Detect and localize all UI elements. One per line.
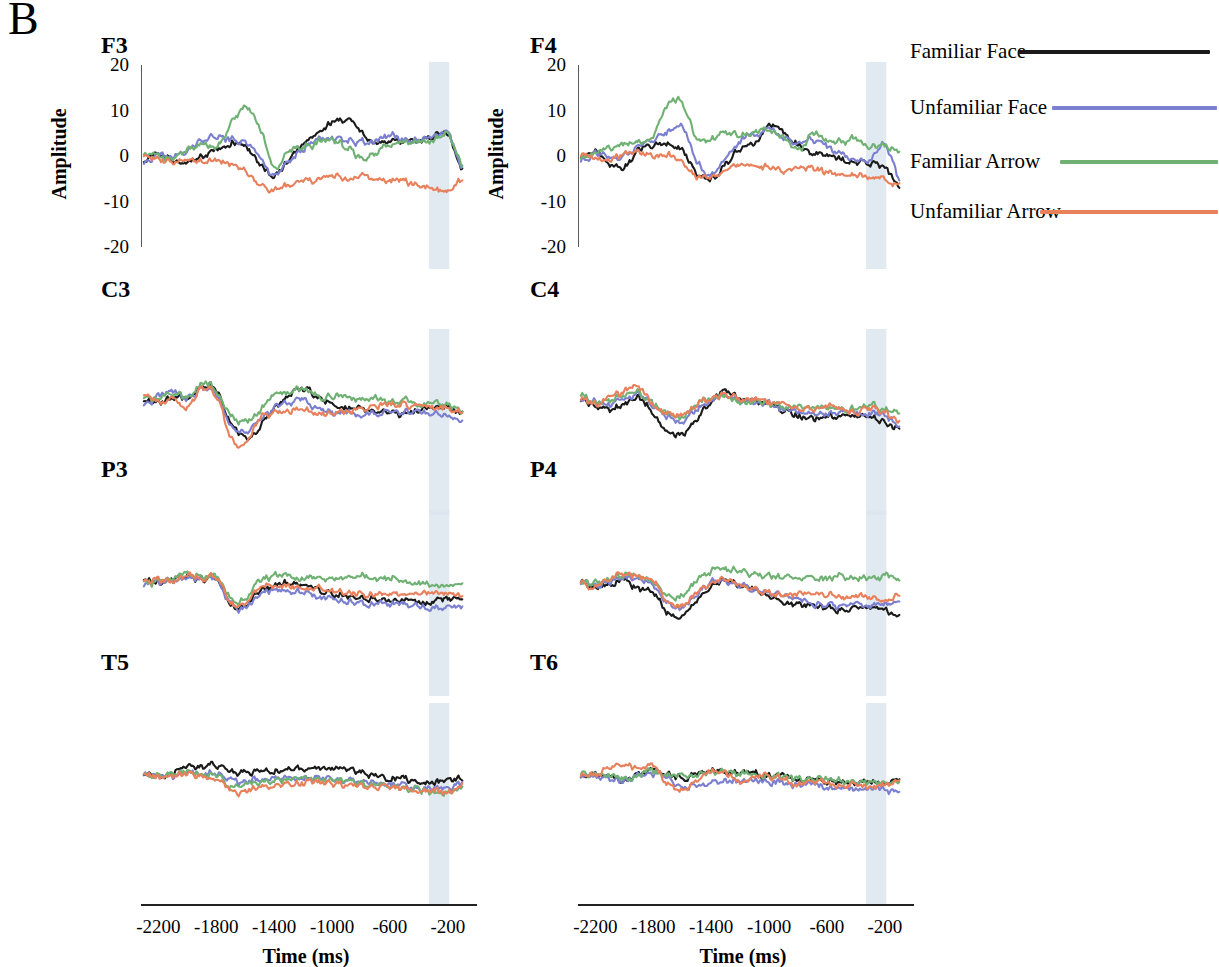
legend-label: Familiar Arrow xyxy=(910,148,1040,174)
legend-color-swatch xyxy=(1040,210,1218,214)
analysis-window-shading xyxy=(429,62,449,269)
y-axis-label: Amplitude xyxy=(49,84,69,224)
y-tick-label: 20 xyxy=(79,55,129,74)
plot-t6 xyxy=(578,685,908,867)
waveform-f3-unfamiliar-face xyxy=(144,131,462,175)
y-tick-label: 0 xyxy=(79,146,129,165)
plot-f4 xyxy=(578,65,908,247)
electrode-label-p4: P4 xyxy=(530,457,557,481)
waveform-t5-unfamiliar-arrow xyxy=(144,771,462,796)
electrode-label-t6: T6 xyxy=(530,650,558,674)
legend-color-swatch xyxy=(1060,160,1218,164)
electrode-label-c4: C4 xyxy=(530,277,559,301)
panel-letter: B xyxy=(8,0,39,42)
legend-color-swatch xyxy=(1018,50,1210,54)
plot-f3 xyxy=(141,65,471,247)
legend-label: Unfamiliar Arrow xyxy=(910,198,1061,224)
legend: Familiar FaceUnfamiliar FaceFamiliar Arr… xyxy=(910,38,1210,238)
y-tick-label: 0 xyxy=(516,146,566,165)
y-tick-label: -10 xyxy=(79,192,129,211)
y-tick-label: -10 xyxy=(516,192,566,211)
x-axis-label: Time (ms) xyxy=(668,946,818,966)
legend-color-swatch xyxy=(1052,106,1217,110)
y-tick-label: 20 xyxy=(516,55,566,74)
plot-t5 xyxy=(141,685,471,867)
analysis-window-shading xyxy=(866,703,886,905)
x-tick-label: -200 xyxy=(845,917,925,936)
legend-item-familiar-arrow[interactable]: Familiar Arrow xyxy=(910,148,1210,178)
legend-item-unfamiliar-arrow[interactable]: Unfamiliar Arrow xyxy=(910,198,1210,228)
y-axis-label: Amplitude xyxy=(486,84,506,224)
legend-item-familiar-face[interactable]: Familiar Face xyxy=(910,38,1210,68)
legend-label: Unfamiliar Face xyxy=(910,94,1047,120)
electrode-label-p3: P3 xyxy=(101,457,128,481)
electrode-label-c3: C3 xyxy=(101,277,130,301)
y-tick-label: -20 xyxy=(516,237,566,256)
electrode-label-t5: T5 xyxy=(101,650,129,674)
y-tick-label: 10 xyxy=(516,101,566,120)
x-tick-label: -200 xyxy=(408,917,488,936)
legend-label: Familiar Face xyxy=(910,38,1026,64)
waveform-canvas-t6 xyxy=(578,625,922,927)
waveform-canvas-t5 xyxy=(141,625,485,927)
y-tick-label: 10 xyxy=(79,101,129,120)
analysis-window-shading xyxy=(429,703,449,905)
y-tick-label: -20 xyxy=(79,237,129,256)
legend-item-unfamiliar-face[interactable]: Unfamiliar Face xyxy=(910,94,1210,124)
x-axis-label: Time (ms) xyxy=(231,946,381,966)
